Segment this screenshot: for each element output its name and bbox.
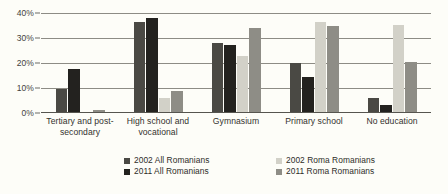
legend-swatch-icon <box>276 169 282 175</box>
bar <box>249 28 261 113</box>
y-tick-label: 40% <box>17 9 34 18</box>
chart-legend: 2002 All Romanians2011 All Romanians2002… <box>124 156 424 186</box>
y-tick-label: 20% <box>17 59 34 68</box>
bar-chart: 0%10%20%30%40% Tertiary and post-seconda… <box>0 0 448 194</box>
x-axis-label-line: vocational <box>111 127 205 138</box>
bar <box>56 89 68 114</box>
bar <box>302 77 314 113</box>
legend-item[interactable]: 2011 All Romanians <box>124 167 209 176</box>
legend-swatch-icon <box>124 158 130 164</box>
legend-item[interactable]: 2011 Roma Romanians <box>276 167 374 176</box>
bars-layer <box>41 13 431 113</box>
bar <box>393 25 405 113</box>
y-tick-mark <box>35 88 40 89</box>
bar <box>171 91 183 114</box>
y-axis: 0%10%20%30%40% <box>0 0 40 120</box>
plot-area: 0%10%20%30%40% <box>0 0 448 120</box>
legend-label: 2011 All Romanians <box>134 167 209 176</box>
x-axis-line <box>41 112 431 113</box>
legend-label: 2011 Roma Romanians <box>286 167 374 176</box>
bar <box>315 22 327 113</box>
legend-swatch-icon <box>276 158 282 164</box>
legend-swatch-icon <box>124 169 130 175</box>
bar <box>212 43 224 113</box>
bar <box>224 45 236 114</box>
x-axis-labels: Tertiary and post-secondaryHigh school a… <box>41 116 431 144</box>
bar <box>290 63 302 113</box>
y-tick-mark <box>35 13 40 14</box>
y-tick-label: 10% <box>17 84 34 93</box>
y-tick-mark <box>35 38 40 39</box>
x-axis-label-line: No education <box>345 116 439 127</box>
plot-canvas <box>41 13 431 113</box>
bar <box>146 18 158 114</box>
bar <box>327 26 339 113</box>
bar <box>134 22 146 113</box>
legend-item[interactable]: 2002 Roma Romanians <box>276 156 375 165</box>
bar <box>237 56 249 114</box>
legend-item[interactable]: 2002 All Romanians <box>124 156 209 165</box>
x-axis-label: No education <box>345 116 439 127</box>
bar <box>368 98 380 113</box>
y-tick-mark <box>35 63 40 64</box>
y-tick-mark <box>35 113 40 114</box>
bar <box>68 69 80 113</box>
bar <box>405 62 417 114</box>
bar <box>159 98 171 113</box>
legend-label: 2002 Roma Romanians <box>286 156 375 165</box>
legend-label: 2002 All Romanians <box>134 156 209 165</box>
y-tick-label: 30% <box>17 34 34 43</box>
